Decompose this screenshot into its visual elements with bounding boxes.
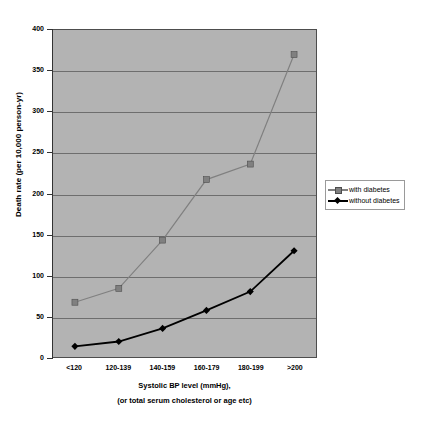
- legend-label-with-diabetes: with diabetes: [348, 185, 390, 194]
- series-layer: [53, 30, 316, 357]
- data-point-diamond: [203, 307, 210, 314]
- x-axis-tick-label: 160-179: [194, 364, 220, 371]
- y-axis-tick-mark: [47, 70, 52, 71]
- y-axis-tick-mark: [47, 276, 52, 277]
- diamond-marker-icon: [334, 197, 341, 204]
- data-point-square: [116, 285, 122, 291]
- y-axis-tick-mark: [47, 235, 52, 236]
- square-marker-icon: [335, 187, 342, 194]
- data-point-square: [203, 177, 209, 183]
- x-axis-tick-label: >200: [287, 364, 303, 371]
- data-point-square: [160, 237, 166, 243]
- series-line-with-diabetes: [75, 55, 294, 303]
- legend-swatch-diamond-icon: [328, 195, 348, 206]
- series-line-without-diabetes: [75, 251, 294, 347]
- legend-item-with-diabetes: with diabetes: [328, 184, 402, 195]
- legend-swatch-square-icon: [328, 184, 348, 195]
- y-axis-tick-label: 0: [40, 354, 44, 362]
- y-axis-tick-label: 400: [32, 25, 44, 33]
- data-point-square: [291, 52, 297, 58]
- data-point-square: [247, 161, 253, 167]
- y-axis-tick-label: 50: [36, 313, 44, 321]
- y-axis-tick-label: 250: [32, 148, 44, 156]
- legend-item-without-diabetes: without diabetes: [328, 195, 402, 206]
- y-axis-tick-mark: [47, 111, 52, 112]
- legend-label-without-diabetes: without diabetes: [348, 196, 400, 205]
- data-point-diamond: [159, 325, 166, 332]
- y-axis-tick-mark: [47, 317, 52, 318]
- y-axis-tick-label: 350: [32, 66, 44, 74]
- legend: with diabetes without diabetes: [325, 180, 405, 210]
- y-axis-tick-label: 100: [32, 272, 44, 280]
- y-axis-tick-mark: [47, 152, 52, 153]
- plot-area: [52, 29, 317, 358]
- y-axis-ticks: 050100150200250300350400: [0, 29, 52, 359]
- x-axis-tick-label: 120-139: [105, 364, 131, 371]
- y-axis-tick-mark: [47, 358, 52, 359]
- chart-container: 050100150200250300350400 Death rate (per…: [0, 0, 427, 422]
- y-axis-tick-mark: [47, 194, 52, 195]
- data-point-square: [72, 299, 78, 305]
- data-point-diamond: [115, 338, 122, 345]
- y-axis-tick-label: 150: [32, 231, 44, 239]
- x-axis-tick-label: 140-159: [150, 364, 176, 371]
- y-axis-tick-mark: [47, 29, 52, 30]
- x-axis-tick-label: 180-199: [238, 364, 264, 371]
- x-axis-tick-label: <120: [66, 364, 82, 371]
- x-axis-subtitle: (or total serum cholesterol or age etc): [22, 396, 347, 405]
- y-axis-line: [52, 29, 53, 359]
- y-axis-tick-label: 200: [32, 190, 44, 198]
- data-point-diamond: [71, 343, 78, 350]
- y-axis-tick-label: 300: [32, 107, 44, 115]
- x-axis-title: Systolic BP level (mmHg),: [52, 381, 317, 390]
- y-axis-title: Death rate (per 10,000 person-yr): [14, 65, 23, 245]
